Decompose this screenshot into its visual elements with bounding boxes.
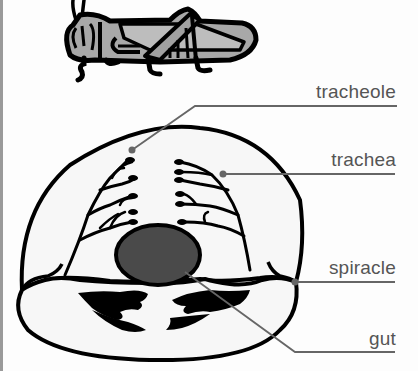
tracheal-system-diagram (0, 0, 418, 371)
label-spiracle: spiracle (329, 258, 396, 277)
grasshopper-illustration (67, 0, 256, 80)
label-trachea: trachea (331, 150, 396, 169)
label-tracheole: tracheole (316, 82, 396, 101)
label-gut: gut (369, 329, 396, 348)
gut-shape (116, 225, 200, 285)
